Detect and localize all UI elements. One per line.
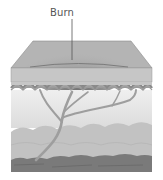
skin-layers-illustration [0,0,163,180]
skin-burn-diagram: Burn [0,0,163,180]
epidermis-front [11,68,152,82]
dermis [11,90,152,128]
